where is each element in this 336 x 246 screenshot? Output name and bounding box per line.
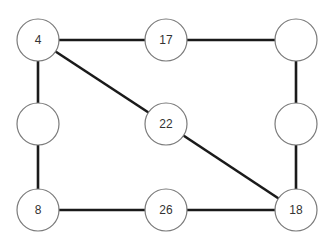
node-circle: [275, 19, 317, 61]
edge-22-18: [166, 124, 296, 210]
node-circle: [17, 103, 59, 145]
node-label: 18: [289, 203, 303, 217]
node: 22: [145, 103, 187, 145]
node: 4: [17, 19, 59, 61]
node-label: 17: [159, 33, 173, 47]
node: [275, 19, 317, 61]
node: 18: [275, 189, 317, 231]
node-label: 4: [35, 33, 42, 47]
node: 17: [145, 19, 187, 61]
nodes-layer: 4 17 22 8 26: [17, 19, 317, 231]
node-circle: [275, 103, 317, 145]
node-label: 26: [159, 203, 173, 217]
node: 8: [17, 189, 59, 231]
graph-diagram: 4 17 22 8 26: [0, 0, 336, 246]
node: [275, 103, 317, 145]
node-label: 8: [35, 203, 42, 217]
node-label: 22: [159, 117, 173, 131]
edge-4-22: [38, 40, 166, 124]
node: 26: [145, 189, 187, 231]
node: [17, 103, 59, 145]
